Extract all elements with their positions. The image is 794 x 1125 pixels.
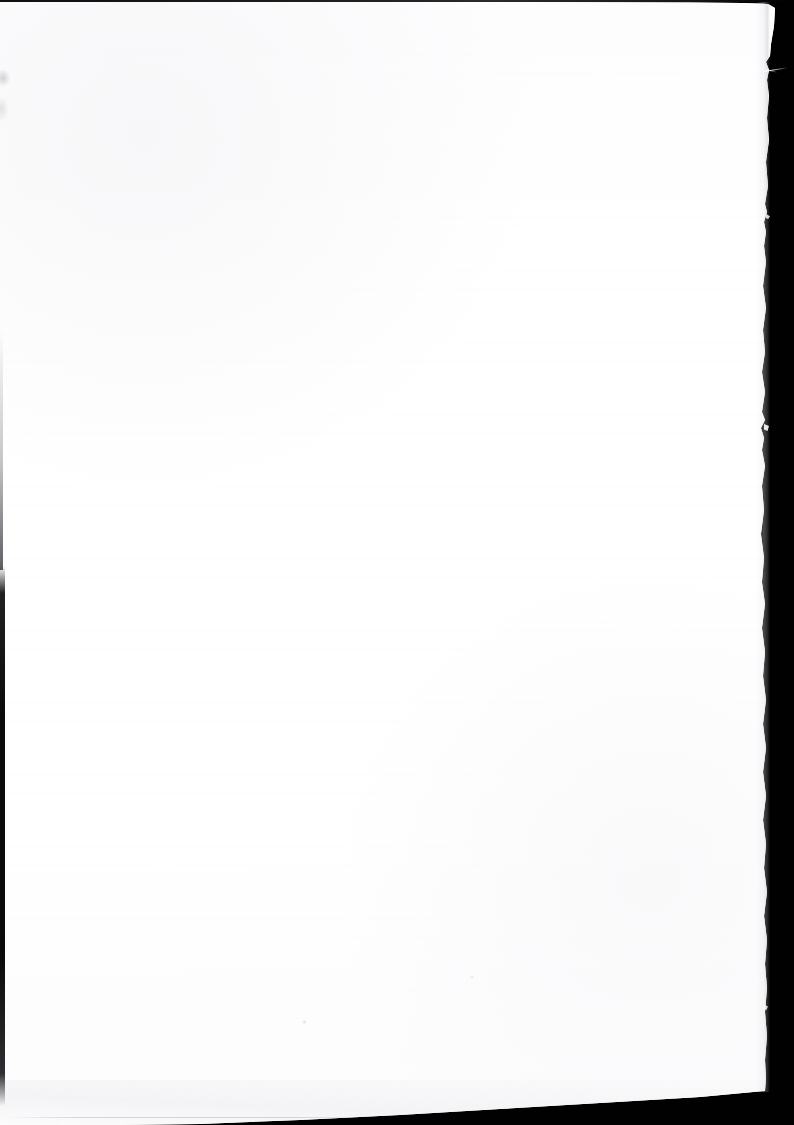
scanner-ccd-banding [0,2,768,1092]
toner-fleck-icon [470,975,474,979]
bottom-scan-line [6,1117,366,1118]
scanned-page-frame [0,0,794,1125]
paper-surface-tone [0,0,794,1125]
left-gutter-fade [0,330,3,570]
smudge-icon [0,98,8,120]
left-gutter-strip [0,566,5,1106]
paper-sheet [0,0,794,1125]
top-edge-band [0,0,794,2]
toner-fleck-icon [302,1020,307,1024]
smudge-icon [0,70,10,86]
